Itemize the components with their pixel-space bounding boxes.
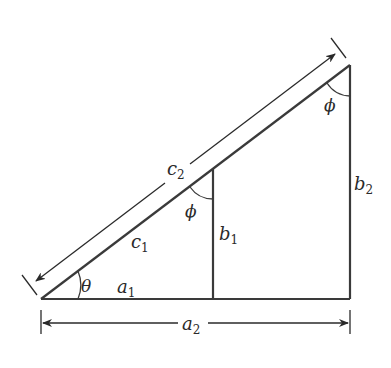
phi-outer-label: ϕ [324,95,336,115]
outer-triangle [41,65,350,299]
c2-tick-left [22,275,37,295]
similar-triangles-diagram: θ ϕ ϕ a1 a2 b1 b2 c1 c2 [0,0,391,368]
b1-label: b1 [219,223,238,247]
a1-label: a1 [117,276,135,300]
phi-inner-label: ϕ [185,201,197,221]
theta-label: θ [81,276,91,296]
phi-inner-arc [190,187,213,199]
c2-dimension [22,38,346,295]
hypotenuse-c2 [41,65,350,299]
c2-label: c2 [167,158,185,182]
b2-label: b2 [354,173,373,197]
a2-label: a2 [182,313,200,337]
diagram-svg: θ ϕ ϕ a1 a2 b1 b2 c1 c2 [0,0,391,368]
c1-label: c1 [131,231,149,255]
